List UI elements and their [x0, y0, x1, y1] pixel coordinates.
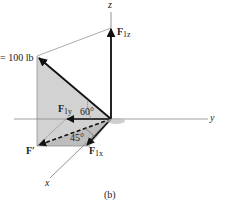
- f1y-label: F1y: [58, 104, 72, 114]
- figure-caption: (b): [104, 190, 116, 200]
- f1x-sub: 1x: [95, 149, 103, 158]
- f1y-sub: 1y: [64, 107, 72, 116]
- fprime-label: F′: [26, 146, 35, 156]
- angle-45-label: 45°: [70, 133, 84, 143]
- support-icon: [107, 118, 125, 124]
- force-diagram: [0, 0, 227, 212]
- f1z-sub: 1z: [123, 30, 131, 39]
- angle-60-label: 60°: [80, 107, 94, 117]
- force-magnitude-label: = 100 lb: [0, 53, 33, 63]
- z-axis-label: z: [108, 0, 112, 10]
- x-axis-label: x: [45, 178, 49, 188]
- construction-line-top: [37, 28, 111, 56]
- f1z-label: F1z: [117, 27, 131, 37]
- y-axis-label: y: [210, 113, 214, 123]
- f1x-label: F1x: [89, 146, 103, 156]
